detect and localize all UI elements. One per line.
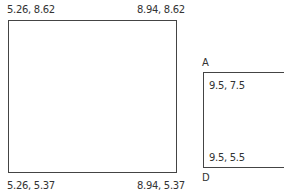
corner-label-d: D [202,172,209,184]
left-rect-bottom-right-label: 8.94, 5.37 [137,180,185,192]
left-rectangle [8,20,177,173]
left-rect-bottom-left-label: 5.26, 5.37 [7,180,55,192]
right-rect-bottom-left-label: 9.5, 5.5 [209,152,245,164]
left-rect-top-right-label: 8.94, 8.62 [137,4,185,16]
corner-label-a: A [202,57,209,69]
left-rect-top-left-label: 5.26, 8.62 [7,4,55,16]
right-rect-top-left-label: 9.5, 7.5 [209,80,245,92]
